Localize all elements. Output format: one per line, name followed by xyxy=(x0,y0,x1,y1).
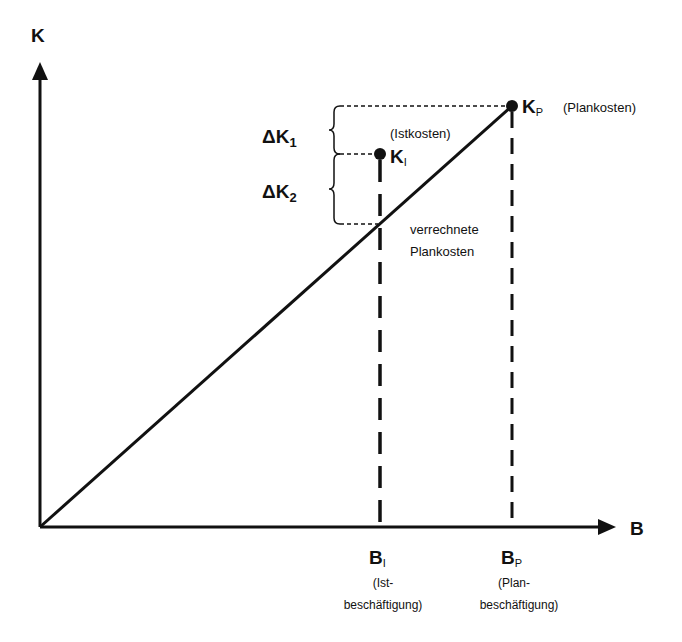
actual-employment-line2: beschäftigung) xyxy=(344,598,423,612)
plan-employment-line1: (Plan- xyxy=(498,576,530,590)
delta-k2-label: ΔK2 xyxy=(262,181,297,205)
actual-cost-annotation: (Istkosten) xyxy=(390,126,451,141)
actual-cost-symbol: KI xyxy=(390,146,407,168)
plankostenrechnung-diagram: K B ΔK1 ΔK2 KP (Plankosten) KI (Istkoste… xyxy=(0,0,682,642)
y-axis-label: K xyxy=(31,25,45,46)
actual-cost-point xyxy=(374,148,386,160)
plan-employment-symbol: BP xyxy=(501,547,522,569)
plan-cost-annotation: (Plankosten) xyxy=(563,100,636,115)
actual-employment-line1: (Ist- xyxy=(373,576,394,590)
x-axis-label: B xyxy=(630,518,644,539)
plan-cost-point xyxy=(506,100,518,112)
line-label-line2: Plankosten xyxy=(410,244,474,259)
delta-k2-brace xyxy=(329,154,340,224)
plan-employment-line2: beschäftigung) xyxy=(480,598,559,612)
y-axis-arrow-icon xyxy=(32,62,48,80)
x-axis-arrow-icon xyxy=(598,519,616,535)
delta-k1-label: ΔK1 xyxy=(262,126,297,150)
plan-cost-symbol: KP xyxy=(522,96,543,118)
line-label-line1: verrechnete xyxy=(410,222,479,237)
actual-employment-symbol: BI xyxy=(369,547,386,569)
plan-cost-line xyxy=(40,106,512,527)
x-axis: B xyxy=(40,518,644,539)
delta-k1-brace xyxy=(329,106,340,154)
y-axis: K xyxy=(31,25,48,527)
